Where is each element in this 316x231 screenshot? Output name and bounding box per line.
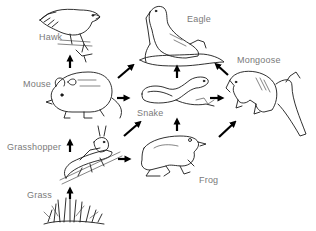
label-eagle: Eagle xyxy=(187,14,211,24)
arrow-mongoose-to-eagle xyxy=(217,65,228,75)
label-grass: Grass xyxy=(27,190,52,200)
label-mouse: Mouse xyxy=(23,79,51,89)
label-frog: Frog xyxy=(199,175,218,185)
label-hawk: Hawk xyxy=(39,32,62,42)
mouse-illustration xyxy=(46,72,122,118)
label-snake: Snake xyxy=(137,108,164,118)
grasshopper-illustration xyxy=(60,126,122,184)
frog-illustration xyxy=(141,136,206,176)
eagle-illustration xyxy=(140,6,224,66)
snake-illustration xyxy=(142,77,214,106)
arrow-mouse-to-eagle xyxy=(118,66,132,78)
grass-illustration xyxy=(44,196,104,224)
label-grasshopper: Grasshopper xyxy=(7,142,61,152)
arrow-frog-to-mongoose xyxy=(219,123,234,137)
mongoose-illustration xyxy=(226,71,306,136)
arrow-grasshopper-to-snake xyxy=(124,123,139,136)
label-mongoose: Mongoose xyxy=(237,55,281,65)
